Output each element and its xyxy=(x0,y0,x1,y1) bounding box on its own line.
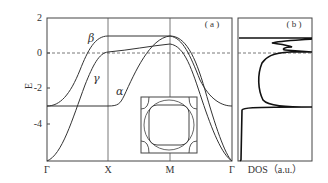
band-gamma xyxy=(47,44,232,161)
y-axis-ticks: 2 0 -2 -4 xyxy=(34,12,50,129)
ytick-2: 2 xyxy=(37,12,42,23)
dos-curve xyxy=(239,38,312,161)
x-axis-ticks: Γ X M Γ xyxy=(44,164,235,175)
dos-axis-label: DOS（a.u.） xyxy=(248,164,302,175)
panel-a-frame xyxy=(47,18,232,161)
ytick-0: 0 xyxy=(37,47,42,58)
band-alpha xyxy=(47,36,232,161)
label-beta: β xyxy=(87,32,94,45)
panel-a-label: ( a ) xyxy=(205,19,220,29)
xtick-x: X xyxy=(104,164,112,175)
label-gamma: γ xyxy=(93,72,100,85)
xtick-gamma-right: Γ xyxy=(229,164,235,175)
ytick-neg2: -2 xyxy=(34,82,42,93)
xtick-m: M xyxy=(166,164,175,175)
band-structure-figure: 2 0 -2 -4 E Γ X M Γ β γ α ( a ) ( b ) DO… xyxy=(0,0,328,183)
band-beta xyxy=(47,36,232,106)
y-axis-label: E xyxy=(23,83,34,89)
xtick-gamma-left: Γ xyxy=(44,164,50,175)
ytick-neg4: -4 xyxy=(34,118,42,129)
panel-b-label: ( b ) xyxy=(287,19,302,29)
fermi-surface-inset xyxy=(141,97,197,153)
label-alpha: α xyxy=(116,85,124,98)
